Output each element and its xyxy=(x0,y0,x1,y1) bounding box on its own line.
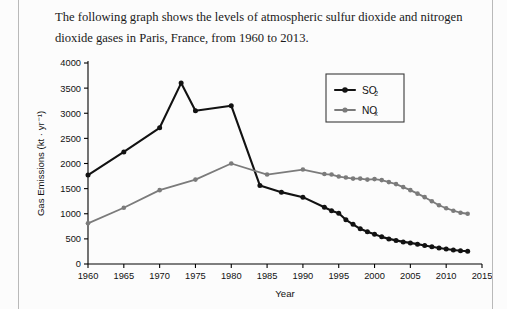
data-point-NOx xyxy=(86,221,91,226)
data-point-NOx xyxy=(265,172,270,177)
data-point-NOx xyxy=(465,211,470,216)
data-point-NOx xyxy=(358,176,363,181)
x-axis-tick-label: 2015 xyxy=(472,271,492,281)
data-point-NOx xyxy=(444,206,449,211)
data-point-NOx xyxy=(422,195,427,200)
x-axis-tick-label: 1985 xyxy=(257,271,278,281)
data-point-SO2 xyxy=(157,125,162,130)
x-axis-tick-label: 2000 xyxy=(364,271,385,281)
data-point-SO2 xyxy=(229,103,234,108)
data-point-SO2 xyxy=(179,81,184,86)
data-point-NOx xyxy=(415,191,420,196)
y-axis-tick-label: 3000 xyxy=(60,109,81,119)
data-point-SO2 xyxy=(458,248,463,253)
x-axis-tick-label: 2010 xyxy=(436,271,457,281)
data-point-SO2 xyxy=(437,245,442,250)
data-point-NOx xyxy=(229,161,234,166)
series-line-SO2 xyxy=(88,83,468,251)
data-point-SO2 xyxy=(193,108,198,113)
data-point-SO2 xyxy=(358,226,363,231)
data-point-NOx xyxy=(329,172,334,177)
x-axis-title: Year xyxy=(275,288,295,299)
data-point-SO2 xyxy=(394,238,399,243)
data-point-NOx xyxy=(351,176,356,181)
data-point-SO2 xyxy=(329,208,334,213)
x-axis-tick-label: 1995 xyxy=(328,271,349,281)
data-point-NOx xyxy=(336,174,341,179)
prompt-paragraph: The following graph shows the levels of … xyxy=(55,7,475,49)
legend-marker-NOx xyxy=(342,107,347,112)
data-point-SO2 xyxy=(408,240,413,245)
data-point-SO2 xyxy=(300,195,305,200)
data-point-NOx xyxy=(401,185,406,190)
y-axis-title: Gas Emissions (kt · yr⁻¹) xyxy=(35,111,46,216)
y-axis-tick-label: 2000 xyxy=(60,159,81,169)
y-axis-tick-label: 1000 xyxy=(60,209,81,219)
legend-subscript-NOx: x xyxy=(374,110,378,117)
x-axis-tick-label: 2005 xyxy=(400,271,421,281)
data-point-NOx xyxy=(372,177,377,182)
x-axis-tick-label: 1975 xyxy=(185,271,206,281)
data-point-NOx xyxy=(394,182,399,187)
page-border-left xyxy=(18,0,19,309)
data-point-NOx xyxy=(408,188,413,193)
y-axis-tick-label: 1500 xyxy=(60,184,81,194)
data-point-NOx xyxy=(451,208,456,213)
y-axis-tick-label: 4000 xyxy=(60,58,81,68)
data-point-NOx xyxy=(301,167,306,172)
legend-marker-SO2 xyxy=(342,87,348,93)
page-border-right xyxy=(492,0,493,309)
emissions-line-chart: 0500100015002000250030003500400019601965… xyxy=(30,52,492,302)
data-point-NOx xyxy=(430,199,435,204)
data-point-SO2 xyxy=(451,247,456,252)
data-point-SO2 xyxy=(379,234,384,239)
data-point-SO2 xyxy=(386,236,391,241)
legend-subscript-SO2: 2 xyxy=(374,90,378,97)
data-point-NOx xyxy=(387,180,392,185)
x-axis-tick-label: 1970 xyxy=(149,271,170,281)
data-point-SO2 xyxy=(351,222,356,227)
data-point-SO2 xyxy=(86,173,91,178)
data-point-SO2 xyxy=(372,232,377,237)
y-axis-tick-label: 3500 xyxy=(60,84,81,94)
data-point-SO2 xyxy=(401,239,406,244)
data-point-NOx xyxy=(122,205,127,210)
y-axis-tick-label: 0 xyxy=(76,259,81,269)
data-point-NOx xyxy=(344,175,349,180)
data-point-NOx xyxy=(322,172,327,177)
data-point-NOx xyxy=(193,177,198,182)
chart-svg: 0500100015002000250030003500400019601965… xyxy=(30,52,492,302)
data-point-SO2 xyxy=(336,211,341,216)
data-point-SO2 xyxy=(415,242,420,247)
data-point-SO2 xyxy=(343,217,348,222)
data-point-NOx xyxy=(365,177,370,182)
data-point-SO2 xyxy=(257,183,262,188)
data-point-SO2 xyxy=(429,244,434,249)
data-point-NOx xyxy=(379,178,384,183)
data-point-SO2 xyxy=(465,249,470,254)
x-axis-tick-label: 1990 xyxy=(293,271,314,281)
data-point-NOx xyxy=(458,210,463,215)
y-axis-tick-label: 500 xyxy=(65,234,81,244)
data-point-NOx xyxy=(437,203,442,208)
data-point-SO2 xyxy=(365,229,370,234)
data-point-SO2 xyxy=(279,190,284,195)
data-point-SO2 xyxy=(121,149,126,154)
data-point-SO2 xyxy=(422,243,427,248)
data-point-SO2 xyxy=(444,246,449,251)
x-axis-tick-label: 1960 xyxy=(78,271,99,281)
x-axis-tick-label: 1980 xyxy=(221,271,242,281)
series-line-NOx xyxy=(88,164,468,224)
page-canvas: The following graph shows the levels of … xyxy=(0,0,507,309)
y-axis-tick-label: 2500 xyxy=(60,134,81,144)
x-axis-tick-label: 1965 xyxy=(113,271,134,281)
data-point-NOx xyxy=(157,188,162,193)
data-point-SO2 xyxy=(322,205,327,210)
